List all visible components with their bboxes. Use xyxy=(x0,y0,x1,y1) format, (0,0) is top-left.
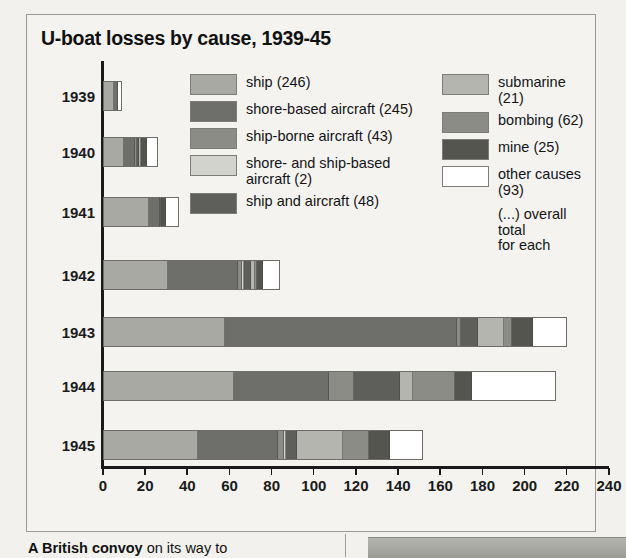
legend-item-other-causes[interactable]: other causes (93) xyxy=(442,165,592,198)
bar-segment-1944-mine[interactable] xyxy=(455,371,472,401)
year-label-1940: 1940 xyxy=(29,144,95,161)
legend-swatch-icon xyxy=(442,166,489,187)
x-tick-label-20: 20 xyxy=(137,477,154,494)
x-tick-label-140: 140 xyxy=(386,477,411,494)
x-tick-200 xyxy=(524,468,526,475)
legend-swatch-icon xyxy=(190,74,237,95)
footer-photo xyxy=(368,537,626,558)
legend-item-label: ship (246) xyxy=(246,73,310,91)
bar-segment-1944-ship-and-aircraft[interactable] xyxy=(354,371,400,401)
legend-item-label: bombing (62) xyxy=(498,111,583,129)
bar-segment-1945-shore-based-aircraft[interactable] xyxy=(198,430,278,460)
bar-segment-1944-submarine[interactable] xyxy=(400,371,413,401)
footer-caption: A British convoy on its way to xyxy=(28,540,227,556)
bar-segment-1941-other-causes[interactable] xyxy=(166,197,179,227)
bar-segment-1944-shore-based-aircraft[interactable] xyxy=(234,371,329,401)
x-tick-label-120: 120 xyxy=(343,477,368,494)
year-label-1943: 1943 xyxy=(29,324,95,341)
bar-segment-1945-ship[interactable] xyxy=(103,430,198,460)
x-tick-120 xyxy=(355,468,357,475)
legend-item-ship-borne-aircraft[interactable]: ship-borne aircraft (43) xyxy=(190,127,440,149)
bar-segment-1944-ship[interactable] xyxy=(103,371,234,401)
legend-item-shore-based-aircraft[interactable]: shore-based aircraft (245) xyxy=(190,100,440,122)
x-tick-80 xyxy=(271,468,273,475)
legend-item-label: ship-borne aircraft (43) xyxy=(246,127,393,145)
bar-row-1942[interactable] xyxy=(103,260,280,290)
footer-caption-rest: on its way to xyxy=(143,540,228,556)
bar-segment-1944-other-causes[interactable] xyxy=(472,371,556,401)
legend-column-right: submarine (21)bombing (62)mine (25)other… xyxy=(442,73,592,254)
bar-segment-1940-ship[interactable] xyxy=(103,137,124,167)
bar-segment-1945-mine[interactable] xyxy=(369,430,390,460)
legend-item-bombing[interactable]: bombing (62) xyxy=(442,111,592,133)
bar-segment-1943-other-causes[interactable] xyxy=(533,317,567,347)
x-tick-220 xyxy=(566,468,568,475)
legend-swatch-icon xyxy=(190,101,237,122)
legend-item-label: shore- and ship-based aircraft (2) xyxy=(246,154,390,187)
legend-column-left: ship (246)shore-based aircraft (245)ship… xyxy=(190,73,440,219)
bar-segment-1943-submarine[interactable] xyxy=(478,317,503,347)
x-tick-20 xyxy=(144,468,146,475)
bar-segment-1943-ship-and-aircraft[interactable] xyxy=(461,317,478,347)
x-tick-60 xyxy=(229,468,231,475)
x-tick-100 xyxy=(313,468,315,475)
bar-segment-1940-shore-based-aircraft[interactable] xyxy=(124,137,135,167)
x-tick-label-40: 40 xyxy=(179,477,196,494)
bar-row-1943[interactable] xyxy=(103,317,567,347)
footer-caption-bold: A British convoy xyxy=(28,540,143,556)
legend-swatch-icon xyxy=(190,193,237,214)
bar-row-1944[interactable] xyxy=(103,371,556,401)
bar-segment-1941-ship[interactable] xyxy=(103,197,149,227)
x-tick-40 xyxy=(186,468,188,475)
x-tick-180 xyxy=(482,468,484,475)
x-tick-label-200: 200 xyxy=(512,477,537,494)
x-tick-240 xyxy=(608,468,610,475)
x-tick-label-100: 100 xyxy=(301,477,326,494)
x-tick-140 xyxy=(397,468,399,475)
bar-segment-1939-other-causes[interactable] xyxy=(118,81,122,111)
year-label-1939: 1939 xyxy=(29,88,95,105)
year-label-1941: 1941 xyxy=(29,204,95,221)
legend-item-mine[interactable]: mine (25) xyxy=(442,138,592,160)
legend-item-submarine[interactable]: submarine (21) xyxy=(442,73,592,106)
bar-segment-1945-submarine[interactable] xyxy=(297,430,343,460)
x-tick-label-160: 160 xyxy=(428,477,453,494)
bar-row-1940[interactable] xyxy=(103,137,158,167)
legend-item-label: shore-based aircraft (245) xyxy=(246,100,413,118)
legend-note: (...) overall total for each xyxy=(498,207,592,254)
bar-segment-1941-shore-based-aircraft[interactable] xyxy=(149,197,160,227)
year-label-1944: 1944 xyxy=(29,378,95,395)
legend-item-ship[interactable]: ship (246) xyxy=(190,73,440,95)
bar-segment-1944-ship-borne-aircraft[interactable] xyxy=(329,371,354,401)
footer-divider xyxy=(345,534,346,557)
bar-segment-1943-bombing[interactable] xyxy=(504,317,512,347)
chart-card: U-boat losses by cause, 1939-45 02040608… xyxy=(26,14,596,532)
bar-segment-1942-shore-based-aircraft[interactable] xyxy=(168,260,238,290)
year-label-1945: 1945 xyxy=(29,437,95,454)
bar-segment-1942-other-causes[interactable] xyxy=(263,260,280,290)
bar-segment-1945-bombing[interactable] xyxy=(343,430,368,460)
legend-item-label: other causes (93) xyxy=(498,165,592,198)
bar-segment-1939-ship[interactable] xyxy=(103,81,114,111)
x-tick-label-240: 240 xyxy=(596,477,621,494)
x-tick-label-220: 220 xyxy=(554,477,579,494)
legend-swatch-icon xyxy=(442,139,489,160)
bar-segment-1943-ship[interactable] xyxy=(103,317,225,347)
x-tick-label-180: 180 xyxy=(470,477,495,494)
bar-segment-1942-ship[interactable] xyxy=(103,260,168,290)
bar-segment-1943-mine[interactable] xyxy=(512,317,533,347)
bar-row-1939[interactable] xyxy=(103,81,122,111)
legend-item-label: ship and aircraft (48) xyxy=(246,192,379,210)
bar-segment-1944-bombing[interactable] xyxy=(413,371,455,401)
x-tick-label-60: 60 xyxy=(221,477,238,494)
bar-segment-1940-other-causes[interactable] xyxy=(147,137,158,167)
bar-segment-1945-other-causes[interactable] xyxy=(390,430,424,460)
bar-segment-1943-shore-based-aircraft[interactable] xyxy=(225,317,457,347)
legend-swatch-icon xyxy=(190,155,237,176)
bar-row-1945[interactable] xyxy=(103,430,423,460)
legend-item-ship-and-aircraft[interactable]: ship and aircraft (48) xyxy=(190,192,440,214)
bar-segment-1945-ship-and-aircraft[interactable] xyxy=(286,430,297,460)
legend-item-shore-and-ship-based-aircraft[interactable]: shore- and ship-based aircraft (2) xyxy=(190,154,440,187)
legend-item-label: mine (25) xyxy=(498,138,559,156)
bar-row-1941[interactable] xyxy=(103,197,179,227)
